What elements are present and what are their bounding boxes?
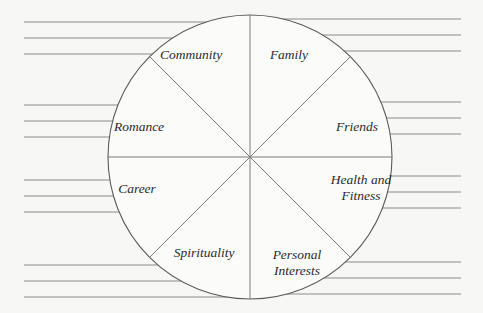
segment-romance: Romance — [114, 119, 164, 135]
segment-community: Community — [160, 47, 222, 63]
segment-personal-interests: Personal Interests — [273, 247, 322, 279]
segment-career: Career — [118, 181, 156, 197]
segment-health-and-fitness: Health and Fitness — [331, 172, 391, 204]
segment-spirituality: Spirituality — [174, 245, 235, 261]
wheel-diagram — [0, 0, 483, 313]
segment-family: Family — [270, 47, 308, 63]
segment-friends: Friends — [336, 119, 378, 135]
wheel-spokes — [108, 15, 392, 299]
